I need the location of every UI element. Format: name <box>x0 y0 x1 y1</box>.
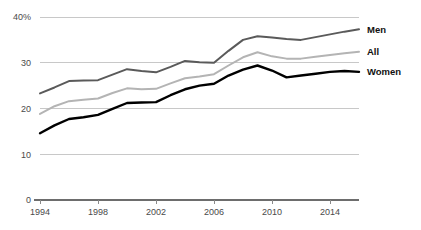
legend-label-all: All <box>367 46 379 57</box>
legend-label-women: Women <box>367 66 401 77</box>
x-tick-label-2010: 2010 <box>262 207 282 217</box>
y-tick-label-30: 30 <box>21 58 31 68</box>
line-chart: 010203040% 199419982002200620102014 MenA… <box>0 0 421 230</box>
x-tick-label-2014: 2014 <box>320 207 340 217</box>
chart-canvas: 010203040% 199419982002200620102014 MenA… <box>0 0 421 230</box>
y-tick-label-40: 40% <box>13 12 31 22</box>
x-tick-label-1994: 1994 <box>30 207 50 217</box>
y-tick-label-0: 0 <box>26 195 31 205</box>
x-tick-label-1998: 1998 <box>88 207 108 217</box>
series-line-men <box>40 29 359 93</box>
x-tick-label-2002: 2002 <box>146 207 166 217</box>
series-lines <box>40 29 359 133</box>
x-axis-tick-labels: 199419982002200620102014 <box>30 207 340 217</box>
series-line-all <box>40 52 359 114</box>
x-axis <box>34 200 359 204</box>
y-tick-label-10: 10 <box>21 150 31 160</box>
y-tick-label-20: 20 <box>21 104 31 114</box>
legend-label-men: Men <box>367 24 386 35</box>
x-tick-label-2006: 2006 <box>204 207 224 217</box>
y-axis-tick-labels: 010203040% <box>13 12 31 205</box>
legend: MenAllWomen <box>367 24 401 78</box>
